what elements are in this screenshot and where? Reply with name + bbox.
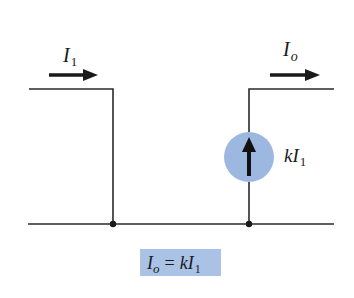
junction-dot-right: [246, 221, 252, 227]
input-current-label: I1: [62, 44, 77, 69]
right-arrow-icon: [49, 69, 98, 81]
output-wire-top: [249, 89, 334, 132]
output-current-label: Io: [282, 38, 298, 64]
cccs-circuit-diagram: I1 Io kI1 Io=kI1: [0, 0, 354, 298]
source-label: kI1: [284, 145, 306, 169]
right-arrow-icon: [270, 69, 320, 81]
input-wire: [29, 89, 113, 224]
junction-dot-left: [110, 221, 116, 227]
